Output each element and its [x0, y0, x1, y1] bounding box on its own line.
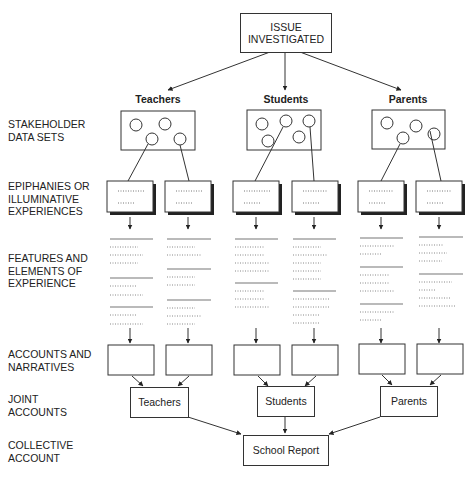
group-heading-students: Students	[246, 93, 326, 105]
group-heading-teachers: Teachers	[118, 93, 198, 105]
row-label-accounts-narratives: ACCOUNTS AND NARRATIVES	[8, 348, 91, 373]
joint-account-students: Students	[257, 386, 315, 417]
collective-account-box: School Report	[243, 435, 329, 466]
issue-investigated-box: ISSUE INVESTIGATED	[240, 13, 332, 53]
row-label-collective-account: COLLECTIVE ACCOUNT	[8, 439, 73, 464]
group-heading-parents: Parents	[368, 93, 448, 105]
row-label-joint-accounts: JOINT ACCOUNTS	[8, 393, 67, 418]
joint-account-teachers: Teachers	[130, 387, 189, 418]
row-label-epiphanies: EPIPHANIES OR ILLUMINATIVE EXPERIENCES	[8, 180, 90, 218]
joint-account-parents: Parents	[380, 386, 438, 417]
row-label-stakeholder-data-sets: STAKEHOLDER DATA SETS	[8, 118, 85, 143]
row-label-features: FEATURES AND ELEMENTS OF EXPERIENCE	[8, 252, 88, 290]
